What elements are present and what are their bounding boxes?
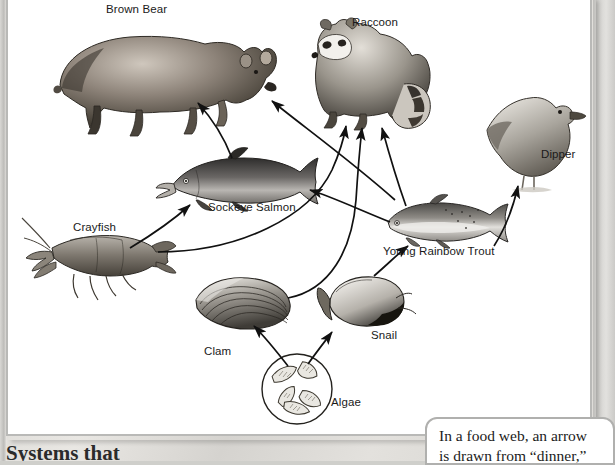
label-raccoon: Raccoon [352, 16, 398, 28]
arrow-clam-to-raccoon [288, 128, 362, 298]
arrow-algae-to-snail [308, 332, 332, 364]
algae-illustration [262, 354, 332, 424]
arrow-algae-to-clam [254, 326, 288, 366]
label-young-rainbow-trout: Young Rainbow Trout [383, 245, 494, 257]
arrow-trout-to-raccoon [382, 128, 406, 206]
label-clam: Clam [204, 345, 231, 357]
label-snail: Snail [371, 329, 397, 341]
label-dipper: Dipper [541, 148, 575, 160]
arrow-crayfish-to-salmon [130, 205, 190, 248]
callout-line-2: is drawn from “dinner,” [439, 446, 605, 465]
label-brown-bear: Brown Bear [106, 3, 167, 15]
dipper-illustration [487, 97, 586, 192]
food-web-callout: In a food web, an arrow is drawn from “d… [425, 417, 615, 465]
callout-line-1: In a food web, an arrow [439, 426, 605, 446]
label-sockeye-salmon: Sockeye Salmon [208, 201, 296, 213]
clam-illustration [196, 278, 290, 329]
label-algae: Algae [331, 396, 361, 408]
raccoon-illustration [312, 18, 431, 130]
snail-illustration [317, 277, 416, 326]
section-heading: Systems that [6, 441, 120, 461]
label-crayfish: Crayfish [73, 221, 116, 233]
brown-bear-illustration [53, 36, 276, 136]
arrow-trout-to-salmon [310, 190, 390, 222]
young-rainbow-trout-illustration [388, 194, 508, 248]
